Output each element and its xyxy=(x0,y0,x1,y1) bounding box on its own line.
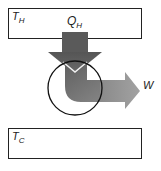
work-out-label: W xyxy=(143,80,153,91)
heat-arrow-shaft xyxy=(62,32,88,54)
heat-in-label: QH xyxy=(67,15,82,30)
heat-arrow-icon xyxy=(48,52,102,74)
work-arrow-icon xyxy=(100,72,140,109)
